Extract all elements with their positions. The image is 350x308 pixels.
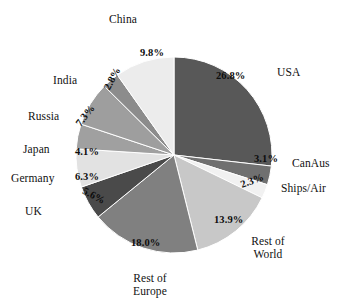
- slice-label-russia: Russia: [28, 110, 59, 123]
- pie-chart-figure: USA CanAus Ships/Air Rest of World Rest …: [0, 0, 350, 308]
- slice-value-china: 9.8%: [140, 47, 164, 58]
- slice-value-rest-of-world: 13.9%: [214, 214, 243, 225]
- slice-label-canaus: CanAus: [292, 157, 330, 170]
- slice-value-germany: 6.3%: [75, 171, 99, 182]
- slice-label-rest-of-europe-line2: Europe: [133, 285, 167, 297]
- slice-value-japan: 4.1%: [75, 146, 99, 157]
- pie-chart-canvas: [0, 0, 350, 308]
- slice-label-usa: USA: [277, 66, 300, 79]
- slice-value-usa: 26.8%: [216, 70, 245, 81]
- slice-label-japan: Japan: [23, 143, 50, 156]
- slice-label-china: China: [109, 13, 137, 26]
- slice-label-rest-of-europe: Rest of Europe: [120, 272, 180, 298]
- slice-label-rest-of-world: Rest of World: [238, 235, 298, 261]
- slice-label-ships-air: Ships/Air: [281, 182, 326, 195]
- slice-label-rest-of-europe-line1: Rest of: [133, 272, 167, 284]
- slice-value-canaus: 3.1%: [254, 153, 278, 164]
- slice-value-rest-of-europe: 18.0%: [131, 237, 160, 248]
- slice-label-germany: Germany: [11, 172, 55, 185]
- slice-label-rest-of-world-line1: Rest of: [251, 235, 285, 247]
- slice-label-rest-of-world-line2: World: [254, 248, 283, 260]
- slice-label-uk: UK: [25, 205, 42, 218]
- slice-label-india: India: [53, 74, 77, 87]
